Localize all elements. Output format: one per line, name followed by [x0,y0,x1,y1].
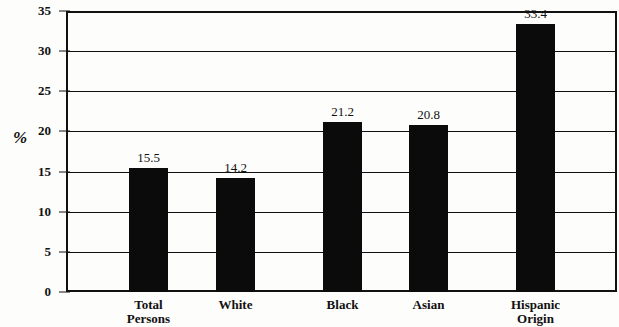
y-tick-label: 10 [11,204,51,220]
y-tick-label: 35 [11,3,51,19]
y-tick-label: 15 [11,164,51,180]
x-category-label: Hispanic Origin [511,298,560,326]
bar-value-label: 20.8 [417,107,440,123]
y-tick-label: 5 [11,244,51,260]
bar-value-label: 15.5 [137,150,160,166]
y-tick-mark [59,292,70,293]
x-category-label: White [219,298,253,312]
y-tick-mark [59,51,70,52]
y-tick-mark [59,211,70,212]
bar-value-label: 33.4 [524,6,547,22]
bar [323,122,362,292]
y-tick-mark [59,251,70,252]
y-tick-mark [59,91,70,92]
x-category-label: Total Persons [127,298,170,326]
y-tick-label: 0 [11,284,51,300]
y-tick-mark [59,171,70,172]
chart-figure: % 15.514.221.220.833.4 05101520253035 To… [0,0,619,327]
plot-area: 15.514.221.220.833.4 [66,11,617,292]
y-tick-label: 20 [11,123,51,139]
y-tick-mark [59,131,70,132]
x-category-label: Asian [413,298,445,312]
x-category-label: Black [327,298,359,312]
y-tick-label: 30 [11,43,51,59]
bar [516,24,555,292]
bar [216,178,255,292]
y-tick-label: 25 [11,83,51,99]
bar [409,125,448,292]
bar-value-label: 14.2 [224,160,247,176]
bar-value-label: 21.2 [331,104,354,120]
y-tick-mark [59,11,70,12]
bar [129,168,168,292]
